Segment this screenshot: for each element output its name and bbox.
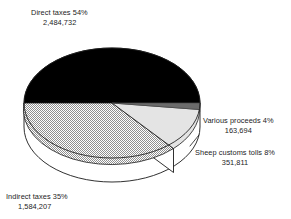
pie-chart-figure: Direct taxes 54% 2,484,732 Indirect taxe… bbox=[0, 0, 291, 219]
pie-label-various-proceeds-value: 163,694 bbox=[203, 126, 274, 136]
pie-slice-direct-taxes[interactable] bbox=[24, 48, 200, 103]
pie-chart-graphic bbox=[0, 0, 291, 219]
pie-top-face bbox=[23, 48, 200, 165]
pie-label-direct-taxes-value: 2,484,732 bbox=[31, 18, 88, 28]
pie-label-various-proceeds-name: Various proceeds 4% bbox=[203, 116, 274, 126]
pie-label-various-proceeds: Various proceeds 4% 163,694 bbox=[203, 116, 274, 135]
pie-label-indirect-taxes-name: Indirect taxes 35% bbox=[6, 192, 68, 202]
pie-label-sheep-customs-tolls-name: Sheep customs tolls 8% bbox=[195, 148, 275, 158]
pie-label-indirect-taxes-value: 1,584,207 bbox=[6, 202, 68, 212]
pie-label-direct-taxes: Direct taxes 54% 2,484,732 bbox=[31, 8, 88, 27]
pie-label-sheep-customs-tolls: Sheep customs tolls 8% 351,811 bbox=[195, 148, 275, 167]
pie-label-indirect-taxes: Indirect taxes 35% 1,584,207 bbox=[6, 192, 68, 211]
pie-label-direct-taxes-name: Direct taxes 54% bbox=[31, 8, 88, 18]
pie-label-sheep-customs-tolls-value: 351,811 bbox=[195, 158, 275, 168]
